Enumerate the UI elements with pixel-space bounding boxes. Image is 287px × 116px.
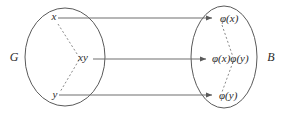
diagram-canvas: G B x xy y φ(x) φ(x)φ(y) φ(y) (0, 0, 287, 116)
dashed-link-product-to-phiy (222, 62, 233, 92)
codomain-element-phi-x: φ(x) (220, 12, 239, 25)
codomain-element-phi-y: φ(y) (219, 89, 238, 102)
codomain-set-label: B (267, 50, 275, 64)
domain-element-xy: xy (77, 51, 88, 63)
dashed-link-xy-to-y (60, 60, 79, 92)
homomorphism-diagram: G B x xy y φ(x) φ(x)φ(y) φ(y) (0, 0, 287, 116)
dashed-link-x-to-xy (58, 24, 79, 57)
domain-element-x: x (51, 10, 57, 22)
codomain-element-phi-x-phi-y: φ(x)φ(y) (212, 52, 249, 65)
domain-set-ellipse (25, 8, 105, 106)
domain-set-label: G (10, 50, 19, 64)
domain-element-y: y (52, 88, 58, 100)
